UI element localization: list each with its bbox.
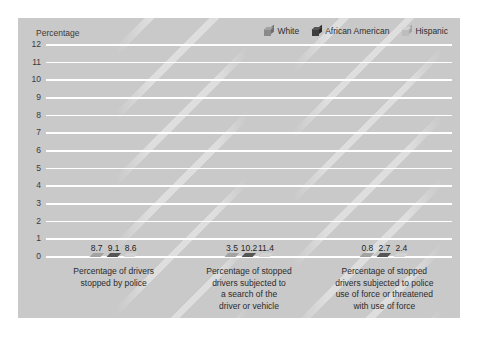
y-axis-tick-label: 2 xyxy=(36,216,41,226)
legend-label: White xyxy=(277,26,299,36)
y-axis-tick-label: 11 xyxy=(32,57,41,67)
legend-label: African American xyxy=(325,26,389,36)
category-label: Percentage of stoppeddrivers subjected t… xyxy=(181,266,316,312)
bar-value-label: 11.4 xyxy=(258,243,274,253)
bar-top-face xyxy=(259,253,273,257)
legend-swatch-cube-icon xyxy=(264,27,273,36)
bar-group: 0.82.72.4 xyxy=(317,44,452,256)
category-label-line: with use of force xyxy=(319,301,450,313)
y-axis-tick-label: 6 xyxy=(36,145,41,155)
bar-top-face xyxy=(377,253,391,257)
y-axis-tick-label: 4 xyxy=(36,180,41,190)
category-label: Percentage of stoppeddrivers subjected t… xyxy=(317,266,452,312)
bar-value-label: 0.8 xyxy=(361,243,373,253)
bar-groups: 8.79.18.63.510.211.40.82.72.4 xyxy=(46,44,452,256)
legend-item-hispanic[interactable]: Hispanic xyxy=(402,26,448,36)
bar-value-label: 3.5 xyxy=(226,243,238,253)
legend-item-african-american[interactable]: African American xyxy=(312,26,389,36)
chart-legend: WhiteAfrican AmericanHispanic xyxy=(264,26,448,36)
y-axis-tick-label: 9 xyxy=(36,92,41,102)
legend-item-white[interactable]: White xyxy=(264,26,299,36)
category-label-line: driver or vehicle xyxy=(183,301,314,313)
category-label: Percentage of driversstopped by police xyxy=(46,266,181,312)
y-axis-tick-label: 7 xyxy=(36,127,41,137)
category-label-line: drivers subjected to police xyxy=(319,278,450,290)
bar-top-face xyxy=(394,253,408,257)
y-axis-tick-label: 12 xyxy=(32,39,41,49)
y-axis-tick-label: 10 xyxy=(32,74,41,84)
category-label-line: Percentage of stopped xyxy=(319,266,450,278)
x-axis-category-labels: Percentage of driversstopped by policePe… xyxy=(46,266,452,312)
bar-top-face xyxy=(360,253,374,257)
bar-value-label: 10.2 xyxy=(241,243,258,253)
y-axis-tick-label: 3 xyxy=(36,198,41,208)
y-axis-tick-label: 5 xyxy=(36,163,41,173)
category-label-line: stopped by police xyxy=(48,278,179,290)
bar-group: 3.510.211.4 xyxy=(181,44,316,256)
bar-top-face xyxy=(124,253,138,257)
category-label-line: a search of the xyxy=(183,289,314,301)
y-axis-tick-label: 0 xyxy=(36,251,41,261)
bar-value-label: 2.7 xyxy=(378,243,390,253)
category-label-line: drivers subjected to xyxy=(183,278,314,290)
y-axis-tick-label: 8 xyxy=(36,110,41,120)
bar-top-face xyxy=(242,253,256,257)
bar-value-label: 2.4 xyxy=(395,243,407,253)
bar-group: 8.79.18.6 xyxy=(46,44,181,256)
chart-panel: Percentage WhiteAfrican AmericanHispanic… xyxy=(18,18,460,318)
bar-top-face xyxy=(225,253,239,257)
bar-value-label: 9.1 xyxy=(108,243,120,253)
category-label-line: Percentage of stopped xyxy=(183,266,314,278)
plot-area: 1211109876543210 8.79.18.63.510.211.40.8… xyxy=(46,44,452,256)
category-label-line: use of force or threatened xyxy=(319,289,450,301)
legend-swatch-cube-icon xyxy=(402,27,411,36)
bar-top-face xyxy=(90,253,104,257)
y-axis-tick-label: 1 xyxy=(36,233,41,243)
y-axis-title: Percentage xyxy=(36,28,79,38)
category-label-line: Percentage of drivers xyxy=(48,266,179,278)
bar-value-label: 8.6 xyxy=(125,243,137,253)
bar-chart: Percentage WhiteAfrican AmericanHispanic… xyxy=(0,0,487,337)
legend-label: Hispanic xyxy=(415,26,448,36)
bar-value-label: 8.7 xyxy=(91,243,103,253)
bar-top-face xyxy=(107,253,121,257)
legend-swatch-cube-icon xyxy=(312,27,321,36)
